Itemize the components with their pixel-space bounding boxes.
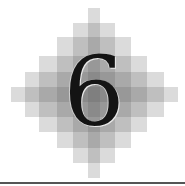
divider-rule	[0, 182, 185, 184]
chapter-number: 6	[0, 44, 185, 140]
chapter-ornament: 6	[0, 0, 185, 186]
